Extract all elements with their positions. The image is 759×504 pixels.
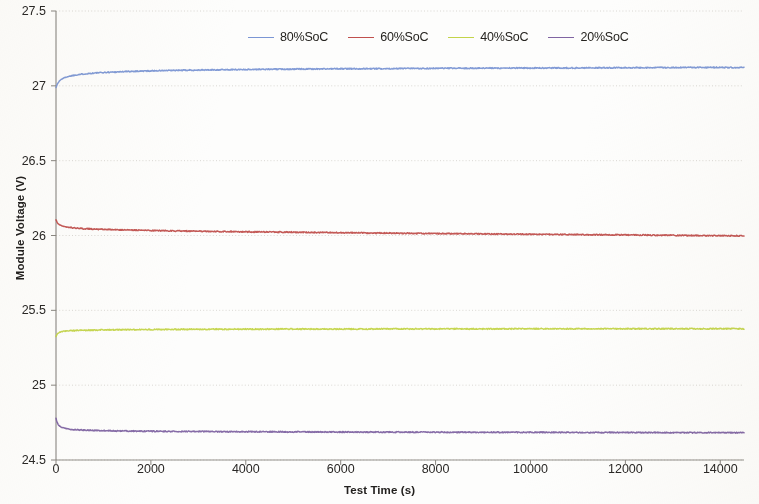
- plot-area: [0, 0, 759, 504]
- axis-ticks: [51, 11, 720, 465]
- data-series-layer: [56, 67, 744, 433]
- legend-swatch-icon: [448, 37, 474, 38]
- legend-item-60pctsoc[interactable]: 60%SoC: [348, 30, 428, 44]
- legend-item-40pctsoc[interactable]: 40%SoC: [448, 30, 528, 44]
- legend-label: 40%SoC: [480, 30, 528, 44]
- series-line-60pctsoc: [56, 220, 744, 236]
- legend-swatch-icon: [548, 37, 574, 38]
- legend-label: 60%SoC: [380, 30, 428, 44]
- legend-label: 80%SoC: [280, 30, 328, 44]
- legend-swatch-icon: [248, 37, 274, 38]
- legend-item-80pctsoc[interactable]: 80%SoC: [248, 30, 328, 44]
- chart-container: 24.52525.52626.52727.5 02000400060008000…: [0, 0, 759, 504]
- chart-legend: 80%SoC60%SoC40%SoC20%SoC: [248, 30, 629, 44]
- series-line-40pctsoc: [56, 328, 744, 336]
- legend-item-20pctsoc[interactable]: 20%SoC: [548, 30, 628, 44]
- series-line-80pctsoc: [56, 67, 744, 88]
- legend-label: 20%SoC: [580, 30, 628, 44]
- legend-swatch-icon: [348, 37, 374, 38]
- series-line-20pctsoc: [56, 418, 744, 433]
